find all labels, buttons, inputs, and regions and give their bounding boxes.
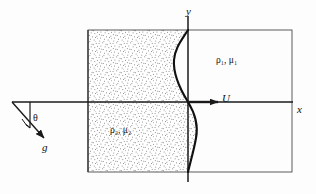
- figure-container: y x U g θ ρ₁, μ₁ ρ₂, μ₂: [0, 0, 316, 194]
- velocity-label: U: [222, 93, 230, 104]
- diagram-canvas: [0, 0, 316, 194]
- upper-fluid-properties-label: ρ₁, μ₁: [216, 56, 237, 66]
- lower-fluid-region: [88, 30, 197, 172]
- theta-angle-label: θ: [33, 113, 38, 123]
- gravity-arrow: [12, 102, 44, 138]
- y-axis-label: y: [186, 6, 191, 17]
- x-axis-label: x: [297, 104, 302, 115]
- lower-fluid-properties-label: ρ₂, μ₂: [110, 126, 131, 136]
- gravity-label: g: [42, 142, 48, 153]
